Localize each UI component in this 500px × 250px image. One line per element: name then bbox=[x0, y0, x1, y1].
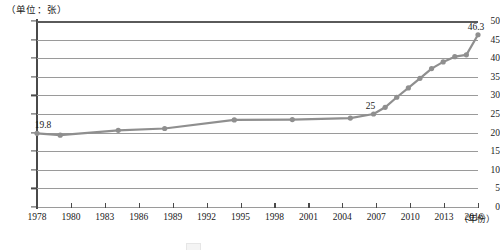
data-point-marker bbox=[406, 85, 411, 90]
data-point-marker bbox=[452, 54, 457, 59]
data-point-marker bbox=[34, 131, 39, 136]
data-point-marker bbox=[394, 95, 399, 100]
legend-swatch bbox=[186, 243, 201, 250]
data-point-label: 19.8 bbox=[35, 120, 52, 130]
chart-figure: （单位：张） 05101520253035404550 197819801983… bbox=[0, 0, 500, 250]
data-point-marker bbox=[116, 128, 121, 133]
data-point-marker bbox=[348, 115, 353, 120]
data-point-marker bbox=[290, 117, 295, 122]
data-point-marker bbox=[464, 52, 469, 57]
data-point-marker bbox=[417, 76, 422, 81]
data-point-label: 25 bbox=[366, 101, 376, 111]
series-polyline bbox=[37, 35, 478, 135]
data-point-marker bbox=[162, 126, 167, 131]
data-series-line bbox=[0, 0, 500, 250]
data-point-marker bbox=[429, 66, 434, 71]
data-point-label: 46.3 bbox=[468, 22, 485, 32]
data-point-marker bbox=[441, 59, 446, 64]
data-point-marker bbox=[383, 105, 388, 110]
data-point-marker bbox=[475, 32, 480, 37]
legend bbox=[186, 243, 306, 250]
data-point-marker bbox=[58, 133, 63, 138]
data-point-marker bbox=[371, 111, 376, 116]
data-point-marker bbox=[232, 117, 237, 122]
